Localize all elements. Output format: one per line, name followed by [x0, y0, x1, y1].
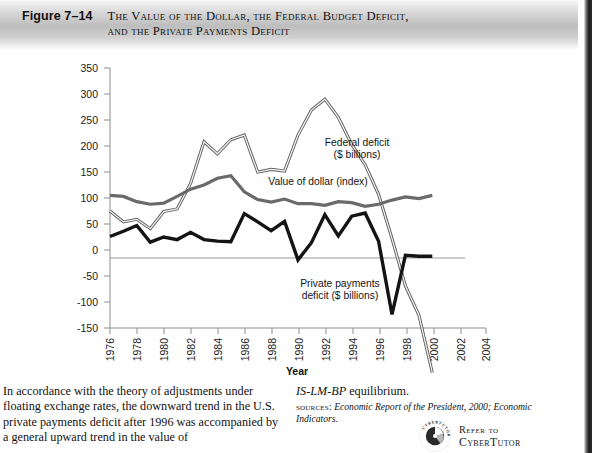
- private-payments-deficit-line: [110, 213, 432, 314]
- cybertutor-logo-icon: CYBERTUTOR: [418, 419, 452, 453]
- annotation-federal-deficit: Federal deficit ($ billions): [325, 137, 390, 160]
- annotation-line-2: ($ billions): [334, 149, 381, 160]
- chart-axes: [110, 68, 486, 328]
- line-chart: 350 300 250 200 150 100 50 0 -50 -100 -1…: [0, 50, 578, 380]
- x-tick-label: 1998: [401, 338, 413, 362]
- x-tick-label: 1986: [239, 338, 251, 362]
- y-tick-label: 350: [80, 62, 98, 74]
- annotation-line-1: Federal deficit: [325, 137, 390, 148]
- series-private-payments-deficit: [110, 213, 432, 314]
- y-tick-label: 200: [80, 140, 98, 152]
- y-tick-label: 50: [86, 218, 98, 230]
- x-tick-label: 1984: [212, 338, 224, 362]
- x-tick-label: 1976: [104, 338, 116, 362]
- x-axis-title: Year: [286, 365, 308, 377]
- figure-number: Figure 7–14: [22, 9, 93, 23]
- y-axis-ticks: 350 300 250 200 150 100 50 0 -50 -100 -1…: [77, 62, 110, 334]
- x-tick-label: 1994: [347, 338, 359, 362]
- y-tick-label: -100: [77, 296, 98, 308]
- figure-header-banner: Figure 7–14 The Value of the Dollar, the…: [0, 0, 578, 50]
- chart-container: 350 300 250 200 150 100 50 0 -50 -100 -1…: [0, 50, 578, 380]
- x-tick-label: 2004: [480, 338, 492, 362]
- y-tick-label: 300: [80, 88, 98, 100]
- y-tick-label: 250: [80, 114, 98, 126]
- annotation-value-of-dollar: Value of dollar (index): [268, 176, 367, 187]
- y-tick-label: 0: [92, 244, 98, 256]
- equilibrium-line: IS-LM-BP equilibrium.: [296, 384, 576, 399]
- figure-title: The Value of the Dollar, the Federal Bud…: [108, 9, 409, 38]
- x-tick-label: 1990: [293, 338, 305, 362]
- figure-header-content: Figure 7–14 The Value of the Dollar, the…: [22, 9, 409, 38]
- x-tick-label: 1978: [131, 338, 143, 362]
- y-tick-label: -50: [83, 270, 98, 282]
- x-tick-label: 1980: [158, 338, 170, 362]
- is-lm-bp-label: IS-LM-BP: [296, 384, 346, 398]
- page-edge-shadow: [578, 0, 592, 453]
- cybertutor-callout[interactable]: CYBERTUTOR Refer to CyberTutor: [418, 419, 578, 453]
- annotation-private-payments-deficit: Private payments deficit ($ billions): [300, 278, 380, 301]
- annotation-line-2: deficit ($ billions): [302, 290, 379, 301]
- sources-label: sources:: [296, 401, 332, 412]
- x-tick-label: 2002: [455, 338, 467, 362]
- refer-to-label: Refer to: [459, 423, 521, 436]
- x-tick-label: 1996: [374, 338, 386, 362]
- y-tick-label: -150: [77, 322, 98, 334]
- caption-left-column: In accordance with the theory of adjustm…: [3, 384, 281, 446]
- x-axis-ticks: 1976 1978 1980 1982 1984 1986 1988 1990 …: [104, 328, 492, 361]
- x-tick-label: 1982: [185, 338, 197, 362]
- y-tick-label: 100: [80, 192, 98, 204]
- y-tick-label: 150: [80, 166, 98, 178]
- x-tick-label: 1988: [266, 338, 278, 362]
- annotation-line-1: Private payments: [300, 278, 380, 289]
- annotation-line-1: Value of dollar (index): [268, 176, 367, 187]
- cybertutor-name: CyberTutor: [459, 436, 521, 449]
- cybertutor-text: Refer to CyberTutor: [459, 423, 521, 449]
- x-tick-label: 1992: [320, 338, 332, 362]
- equilibrium-text: equilibrium.: [346, 384, 409, 398]
